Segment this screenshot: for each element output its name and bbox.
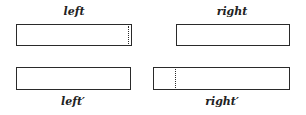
label-right: right	[217, 6, 248, 17]
box-right-prime	[153, 67, 290, 90]
dotted-divider	[128, 26, 129, 44]
label-right-prime: right′	[205, 96, 239, 107]
box-right	[176, 24, 290, 46]
label-left-prime: left′	[61, 96, 85, 107]
box-left-prime	[16, 67, 131, 90]
diagram: left right left′ right′	[0, 0, 306, 115]
box-left	[16, 24, 132, 46]
dotted-divider	[175, 69, 176, 88]
label-left: left	[64, 6, 85, 17]
